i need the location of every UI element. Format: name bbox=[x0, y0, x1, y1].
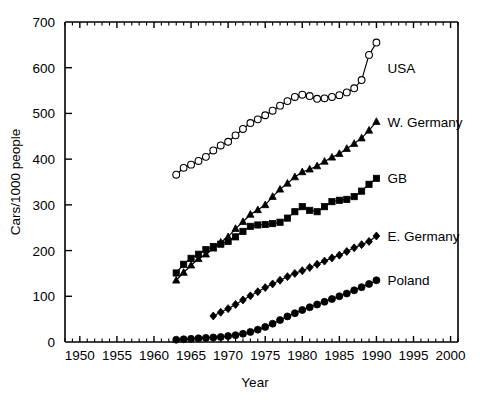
marker-filled-circle bbox=[180, 336, 187, 343]
marker-square bbox=[292, 209, 298, 215]
marker-square bbox=[299, 204, 305, 210]
marker-square bbox=[181, 261, 187, 267]
marker-triangle bbox=[351, 140, 358, 147]
marker-filled-circle bbox=[351, 287, 358, 294]
marker-filled-circle bbox=[262, 323, 269, 330]
x-tick-label: 1995 bbox=[398, 348, 428, 363]
marker-square bbox=[240, 228, 246, 234]
marker-diamond bbox=[210, 312, 217, 320]
marker-open-circle bbox=[306, 93, 313, 100]
marker-triangle bbox=[291, 173, 298, 180]
marker-open-circle bbox=[343, 89, 350, 96]
marker-filled-circle bbox=[373, 277, 380, 284]
series-label-w-germany: W. Germany bbox=[388, 115, 463, 130]
marker-diamond bbox=[247, 292, 254, 300]
marker-open-circle bbox=[262, 112, 269, 119]
marker-diamond bbox=[306, 263, 313, 271]
marker-filled-circle bbox=[306, 304, 313, 311]
cars-per-1000-people-line-chart: 1950195519601965197019751980198519901995… bbox=[0, 0, 501, 401]
marker-open-circle bbox=[291, 94, 298, 101]
marker-square bbox=[225, 238, 231, 244]
marker-filled-circle bbox=[291, 310, 298, 317]
y-axis-title: Cars/1000 people bbox=[8, 129, 23, 236]
marker-square bbox=[218, 241, 224, 247]
y-tick-label: 200 bbox=[32, 244, 55, 259]
marker-square bbox=[188, 255, 194, 261]
data-series bbox=[173, 39, 380, 343]
marker-diamond bbox=[217, 308, 224, 316]
x-tick-label: 2000 bbox=[436, 348, 466, 363]
marker-triangle bbox=[343, 145, 350, 152]
marker-open-circle bbox=[173, 171, 180, 178]
series-usa bbox=[173, 39, 380, 178]
series-line bbox=[176, 280, 376, 339]
marker-diamond bbox=[314, 260, 321, 268]
y-axis-tick-labels: 0100200300400500600700 bbox=[32, 15, 55, 350]
marker-square bbox=[284, 215, 290, 221]
marker-filled-circle bbox=[195, 335, 202, 342]
marker-open-circle bbox=[284, 98, 291, 105]
marker-triangle bbox=[247, 211, 254, 218]
marker-diamond bbox=[240, 296, 247, 304]
marker-square bbox=[344, 196, 350, 202]
marker-filled-circle bbox=[358, 284, 365, 291]
marker-filled-circle bbox=[217, 333, 224, 340]
marker-open-circle bbox=[277, 102, 284, 109]
marker-square bbox=[351, 194, 357, 200]
x-tick-label: 1975 bbox=[250, 348, 280, 363]
series-label-gb: GB bbox=[388, 171, 408, 186]
marker-open-circle bbox=[195, 158, 202, 165]
marker-square bbox=[329, 199, 335, 205]
marker-open-circle bbox=[188, 161, 195, 168]
x-tick-label: 1990 bbox=[361, 348, 391, 363]
marker-filled-circle bbox=[239, 330, 246, 337]
series-label-usa: USA bbox=[388, 61, 416, 76]
marker-open-circle bbox=[210, 147, 217, 154]
marker-open-circle bbox=[180, 164, 187, 171]
marker-diamond bbox=[232, 301, 239, 309]
series-label-e-germany: E. Germany bbox=[388, 229, 460, 244]
marker-filled-circle bbox=[173, 336, 180, 343]
x-tick-label: 1955 bbox=[102, 348, 132, 363]
marker-triangle bbox=[254, 206, 261, 213]
marker-diamond bbox=[329, 254, 336, 262]
marker-diamond bbox=[366, 237, 373, 245]
series-label-poland: Poland bbox=[388, 273, 430, 288]
marker-diamond bbox=[277, 276, 284, 284]
marker-filled-circle bbox=[269, 320, 276, 327]
marker-square bbox=[210, 243, 216, 249]
marker-open-circle bbox=[373, 39, 380, 46]
x-axis-title: Year bbox=[241, 375, 269, 390]
marker-open-circle bbox=[358, 77, 365, 84]
marker-filled-circle bbox=[343, 290, 350, 297]
marker-diamond bbox=[358, 241, 365, 249]
marker-filled-circle bbox=[254, 326, 261, 333]
marker-diamond bbox=[269, 280, 276, 288]
marker-triangle bbox=[276, 185, 283, 192]
marker-open-circle bbox=[336, 92, 343, 99]
marker-open-circle bbox=[351, 85, 358, 92]
x-tick-label: 1985 bbox=[324, 348, 354, 363]
marker-filled-circle bbox=[284, 313, 291, 320]
marker-filled-circle bbox=[321, 298, 328, 305]
marker-square bbox=[366, 181, 372, 187]
marker-filled-circle bbox=[225, 333, 232, 340]
marker-triangle bbox=[314, 162, 321, 169]
marker-filled-circle bbox=[210, 334, 217, 341]
marker-triangle bbox=[373, 118, 380, 125]
marker-square bbox=[173, 270, 179, 276]
marker-open-circle bbox=[202, 153, 209, 160]
marker-square bbox=[336, 197, 342, 203]
marker-open-circle bbox=[232, 132, 239, 139]
marker-filled-circle bbox=[247, 328, 254, 335]
x-tick-label: 1950 bbox=[65, 348, 95, 363]
marker-diamond bbox=[262, 284, 269, 292]
marker-square bbox=[314, 209, 320, 215]
marker-filled-circle bbox=[277, 317, 284, 324]
marker-diamond bbox=[284, 273, 291, 281]
marker-square bbox=[262, 221, 268, 227]
marker-diamond bbox=[225, 305, 232, 313]
series-e-germany bbox=[210, 232, 380, 320]
series-labels: USAW. GermanyGBE. GermanyPoland bbox=[388, 61, 463, 289]
marker-square bbox=[255, 222, 261, 228]
